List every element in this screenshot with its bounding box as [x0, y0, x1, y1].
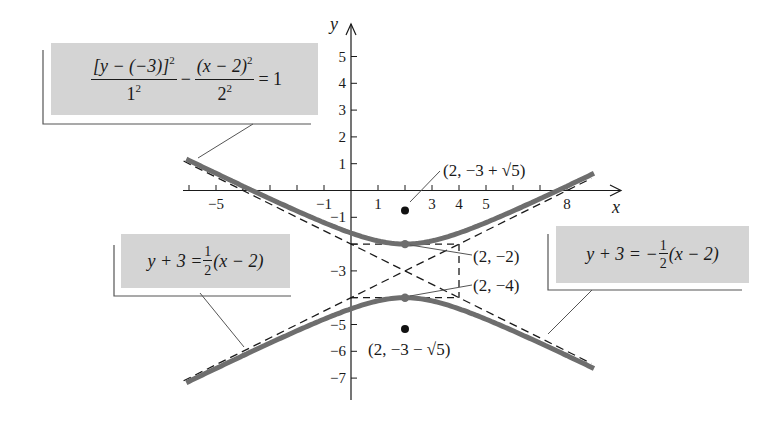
fraction-x-term: (x − 2)2 22 [195, 54, 255, 105]
x-tick-label: 1 [374, 196, 382, 212]
asymptote-lhs: y + 3 = − [586, 244, 657, 265]
leader-asymptote-negative [548, 290, 592, 334]
y-axis-label: y [328, 14, 338, 34]
fraction-one-half: 1 2 [203, 244, 212, 278]
focus-lower-dot [401, 325, 409, 333]
x-tick-label: 5 [482, 196, 490, 212]
y-tick-label: 5 [339, 49, 347, 65]
y-tick-label: 2 [339, 129, 347, 145]
leader-hyperbola-equation [198, 124, 253, 158]
exponent: 2 [169, 54, 175, 66]
asymptote-positive-equation-box: y + 3 = 1 2 (x − 2) [121, 234, 290, 288]
y-tick-label: −7 [330, 370, 346, 386]
x-axis-label: x [611, 197, 620, 217]
numerator-y: [y − (−3)] [93, 56, 169, 76]
asymptote-rhs: (x − 2) [213, 251, 263, 272]
fraction-y-term: [y − (−3)]2 12 [91, 54, 177, 105]
hyperbola-upper-branch [186, 159, 594, 244]
focus-upper-label: (2, −3 + √5) [443, 161, 525, 180]
x-tick-label: 4 [455, 196, 463, 212]
exponent: 2 [136, 82, 142, 94]
leader-asymptote-positive [200, 293, 244, 347]
vertex-upper-dot [401, 240, 409, 248]
y-tick-label: 1 [339, 156, 347, 172]
asymptote-rhs: (x − 2) [669, 244, 719, 265]
denominator-1: 1 [127, 84, 136, 104]
vertex-upper-label: (2, −2) [473, 247, 519, 266]
y-tick-label: −3 [330, 263, 346, 279]
exponent: 2 [247, 54, 253, 66]
y-tick-label: 3 [339, 102, 347, 118]
hyperbola-equation-box: [y − (−3)]2 12 − (x − 2)2 22 = 1 [51, 43, 318, 115]
x-tick-label: 3 [428, 196, 436, 212]
leader-vertex-lower [410, 285, 472, 296]
y-ticks [351, 57, 357, 379]
y-tick-label: −6 [330, 343, 346, 359]
y-tick-labels: 54321−1−3−5−6−7 [330, 49, 346, 387]
asymptote-negative-equation-box: y + 3 = − 1 2 (x − 2) [556, 226, 749, 283]
exponent: 2 [226, 82, 232, 94]
x-tick-label: −5 [208, 196, 224, 212]
numerator-x: (x − 2) [197, 56, 247, 76]
equals-one: = 1 [258, 69, 282, 90]
focus-upper-dot [401, 207, 409, 215]
x-tick-label: 8 [563, 196, 571, 212]
y-tick-label: −1 [330, 209, 346, 225]
asymptote-lhs: y + 3 = [148, 251, 203, 272]
y-tick-label: −5 [330, 317, 346, 333]
fraction-one-half: 1 2 [659, 238, 668, 272]
focus-lower-label: (2, −3 − √5) [368, 340, 450, 359]
vertex-lower-dot [401, 294, 409, 302]
y-tick-label: 4 [339, 75, 347, 91]
vertex-lower-label: (2, −4) [473, 276, 519, 295]
minus-sign: − [181, 69, 191, 90]
